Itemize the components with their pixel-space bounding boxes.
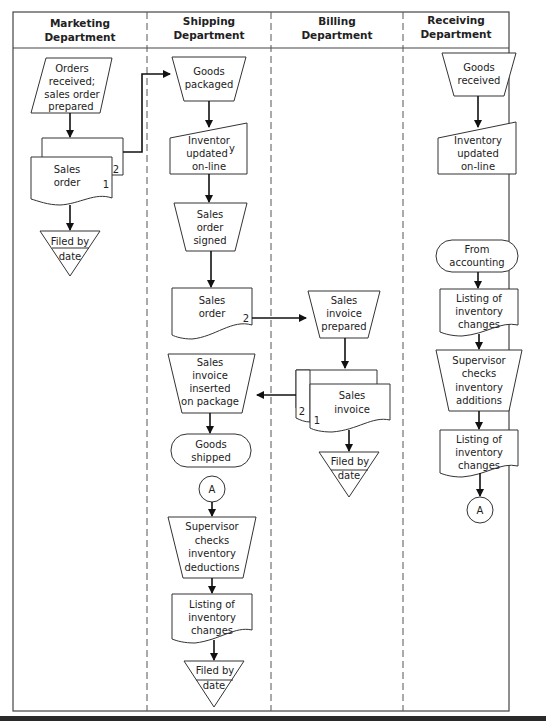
svg-text:Department: Department <box>173 29 244 41</box>
svg-text:Goods: Goods <box>195 439 227 450</box>
node-supervisor-additions: Supervisor checks inventory additions <box>436 350 522 411</box>
node-sales-order-signed: Sales order signed <box>174 203 247 251</box>
svg-text:Filed by: Filed by <box>331 456 370 467</box>
diagram-frame <box>13 12 509 711</box>
node-invoice-prepared: Sales invoice prepared <box>308 291 380 338</box>
svg-text:Listing of: Listing of <box>456 434 502 445</box>
svg-text:Sales: Sales <box>54 164 81 175</box>
lane-header-marketing: Marketing Department <box>44 17 115 43</box>
node-shipping-listing: Listing of inventory changes <box>172 594 252 643</box>
svg-text:sales order: sales order <box>44 89 100 100</box>
svg-text:Sales: Sales <box>197 357 224 368</box>
svg-text:inventory: inventory <box>188 612 236 623</box>
svg-text:Shipping: Shipping <box>183 15 235 27</box>
svg-text:From: From <box>465 244 490 255</box>
svg-text:on-line: on-line <box>461 161 495 172</box>
flowchart-diagram: Marketing Department Shipping Department… <box>0 0 546 721</box>
node-supervisor-deductions: Supervisor checks inventory deductions <box>168 517 256 578</box>
node-goods-packaged: Goods packaged <box>172 57 246 101</box>
svg-text:A: A <box>209 484 216 495</box>
svg-text:y: y <box>229 143 235 154</box>
svg-text:Filed by: Filed by <box>196 665 235 676</box>
lane-header-shipping: Shipping Department <box>173 15 244 41</box>
svg-text:Listing of: Listing of <box>456 293 502 304</box>
svg-text:prepared: prepared <box>48 101 93 112</box>
svg-text:Supervisor: Supervisor <box>185 521 239 532</box>
svg-text:date: date <box>59 251 82 262</box>
svg-text:Sales: Sales <box>199 295 226 306</box>
svg-text:Department: Department <box>44 31 115 43</box>
svg-text:2: 2 <box>113 164 119 175</box>
svg-text:Supervisor: Supervisor <box>452 355 506 366</box>
svg-text:received: received <box>458 75 501 86</box>
svg-text:Sales: Sales <box>339 390 366 401</box>
svg-text:signed: signed <box>193 235 226 246</box>
svg-text:shipped: shipped <box>191 452 231 463</box>
svg-text:inventory: inventory <box>188 548 236 559</box>
svg-text:updated: updated <box>457 148 499 159</box>
svg-text:Department: Department <box>301 29 372 41</box>
svg-text:A: A <box>477 505 484 516</box>
node-orders-received: Orders received; sales order prepared <box>31 58 112 113</box>
svg-text:2: 2 <box>299 406 305 417</box>
svg-text:Receiving: Receiving <box>427 14 485 26</box>
svg-text:order: order <box>199 308 227 319</box>
svg-text:invoice: invoice <box>326 308 362 319</box>
node-shipping-filed-by-date: Filed by date <box>184 661 244 707</box>
svg-text:prepared: prepared <box>321 321 366 332</box>
svg-text:inventory: inventory <box>455 306 503 317</box>
svg-text:date: date <box>203 680 226 691</box>
svg-text:Sales: Sales <box>197 209 224 220</box>
node-marketing-sales-order: 2 Sales order 1 <box>31 138 123 205</box>
svg-text:Sales: Sales <box>331 295 358 306</box>
node-invoice-inserted: Sales invoice inserted on package <box>168 354 255 413</box>
svg-text:inventory: inventory <box>455 382 503 393</box>
svg-text:inventory: inventory <box>455 447 503 458</box>
svg-text:on package: on package <box>181 396 239 407</box>
node-goods-shipped: Goods shipped <box>171 434 251 467</box>
svg-text:updated: updated <box>186 148 228 159</box>
node-billing-sales-invoice: 2 1 Sales invoice <box>296 370 390 432</box>
svg-text:checks: checks <box>195 535 230 546</box>
svg-text:Inventory: Inventory <box>454 135 502 146</box>
svg-text:1: 1 <box>103 179 109 190</box>
lane-header-billing: Billing Department <box>301 15 372 41</box>
svg-text:changes: changes <box>458 319 500 330</box>
svg-text:inserted: inserted <box>189 383 230 394</box>
node-shipping-inventory-updated: Inventor updated y on-line <box>170 123 247 174</box>
svg-text:deductions: deductions <box>184 562 239 573</box>
svg-text:Goods: Goods <box>193 66 225 77</box>
svg-text:changes: changes <box>458 460 500 471</box>
svg-text:Inventor: Inventor <box>188 135 231 146</box>
svg-text:date: date <box>338 470 361 481</box>
node-goods-received: Goods received <box>442 53 516 96</box>
svg-text:invoice: invoice <box>334 404 370 415</box>
svg-text:Listing of: Listing of <box>189 599 235 610</box>
svg-text:checks: checks <box>462 368 497 379</box>
svg-text:order: order <box>197 222 225 233</box>
svg-text:Department: Department <box>420 28 491 40</box>
node-shipping-sales-order: Sales order 2 <box>172 288 252 339</box>
svg-text:Orders: Orders <box>55 63 89 74</box>
node-marketing-filed-by-date: Filed by date <box>40 231 100 276</box>
svg-text:Filed by: Filed by <box>51 236 90 247</box>
svg-text:invoice: invoice <box>192 370 228 381</box>
node-receiving-listing-2: Listing of inventory changes <box>440 430 518 477</box>
svg-text:received;: received; <box>49 76 95 87</box>
node-receiving-listing-1: Listing of inventory changes <box>440 289 518 336</box>
svg-text:on-line: on-line <box>192 161 226 172</box>
svg-text:Marketing: Marketing <box>50 17 110 29</box>
svg-text:1: 1 <box>314 415 320 426</box>
svg-text:additions: additions <box>456 395 502 406</box>
svg-text:accounting: accounting <box>449 257 504 268</box>
svg-text:order: order <box>54 177 82 188</box>
lane-header-receiving: Receiving Department <box>420 14 491 40</box>
node-shipping-connector-a: A <box>199 476 225 502</box>
svg-text:Billing: Billing <box>318 15 355 27</box>
node-billing-filed-by-date: Filed by date <box>319 452 379 497</box>
node-receiving-inventory-updated: Inventory updated on-line <box>438 122 516 174</box>
node-from-accounting: From accounting <box>436 240 518 272</box>
svg-text:Goods: Goods <box>463 62 495 73</box>
node-receiving-connector-a: A <box>467 497 493 523</box>
page-bottom-bar <box>0 716 546 721</box>
